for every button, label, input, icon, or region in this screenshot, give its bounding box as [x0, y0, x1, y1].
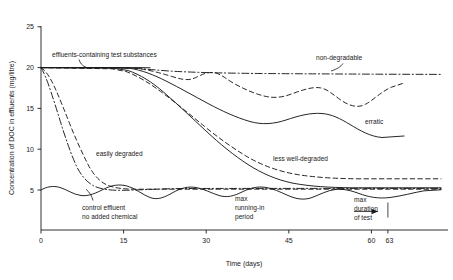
- annotation-erratic: erratic: [365, 118, 384, 125]
- y-tick-label-10: 10: [26, 146, 34, 153]
- curves-group: [41, 68, 441, 200]
- y-axis-title: Concentration of DOC in effluents (mg/li…: [8, 61, 16, 195]
- leader-lines-group: [79, 60, 388, 218]
- annotation-less-well-degraded: less well-degraded: [273, 155, 328, 163]
- curve-less-well-degraded-solid: [41, 68, 441, 188]
- y-tick-label-25: 25: [26, 23, 34, 30]
- leader-effluents: [79, 60, 86, 68]
- curve-non-degradable: [41, 68, 441, 75]
- leader-non-degradable: [331, 64, 343, 72]
- annotation-max-duration-line1: max: [354, 196, 367, 203]
- x-axis-title: Time (days): [226, 260, 263, 268]
- annotation-max-duration-line3: of test: [354, 214, 372, 221]
- annotation-non-degradable: non-degradable: [316, 54, 363, 62]
- x-tick-label-15: 15: [120, 237, 128, 244]
- annotation-max-duration-line2: duration: [354, 205, 378, 212]
- curve-easily-degraded-dashed: [41, 68, 441, 190]
- y-tick-label-5: 5: [30, 187, 34, 194]
- y-tick-label-15: 15: [26, 105, 34, 112]
- doc-concentration-line-chart: 25 20 15 10 5 0 15 30 45 60 63 Concentra…: [0, 0, 453, 280]
- annotation-control-effluent-line2: no added chemical: [82, 213, 138, 220]
- annotation-max-running-in-line2: running-in: [235, 204, 265, 212]
- annotation-control-effluent-line1: control effluent: [82, 204, 125, 211]
- x-tick-label-0: 0: [39, 237, 43, 244]
- curve-erratic-dashed: [41, 68, 404, 107]
- chart-figure: 25 20 15 10 5 0 15 30 45 60 63 Concentra…: [0, 0, 453, 280]
- annotation-effluents-containing-test-substances: effluents-containing test substances: [52, 51, 157, 59]
- curve-erratic-solid: [41, 68, 404, 138]
- axes-group: 25 20 15 10 5 0 15 30 45 60 63 Concentra…: [8, 23, 448, 268]
- x-tick-label-45: 45: [285, 237, 293, 244]
- x-tick-label-30: 30: [202, 237, 210, 244]
- annotation-max-running-in-line1: max: [235, 195, 248, 202]
- annotation-max-running-in-line3: period: [235, 213, 254, 221]
- curve-easily-degraded-dashdot: [41, 68, 441, 191]
- x-tick-label-60: 60: [368, 237, 376, 244]
- annotation-easily-degraded: easily degraded: [96, 150, 143, 158]
- x-tick-label-63: 63: [386, 237, 394, 244]
- y-tick-label-20: 20: [26, 64, 34, 71]
